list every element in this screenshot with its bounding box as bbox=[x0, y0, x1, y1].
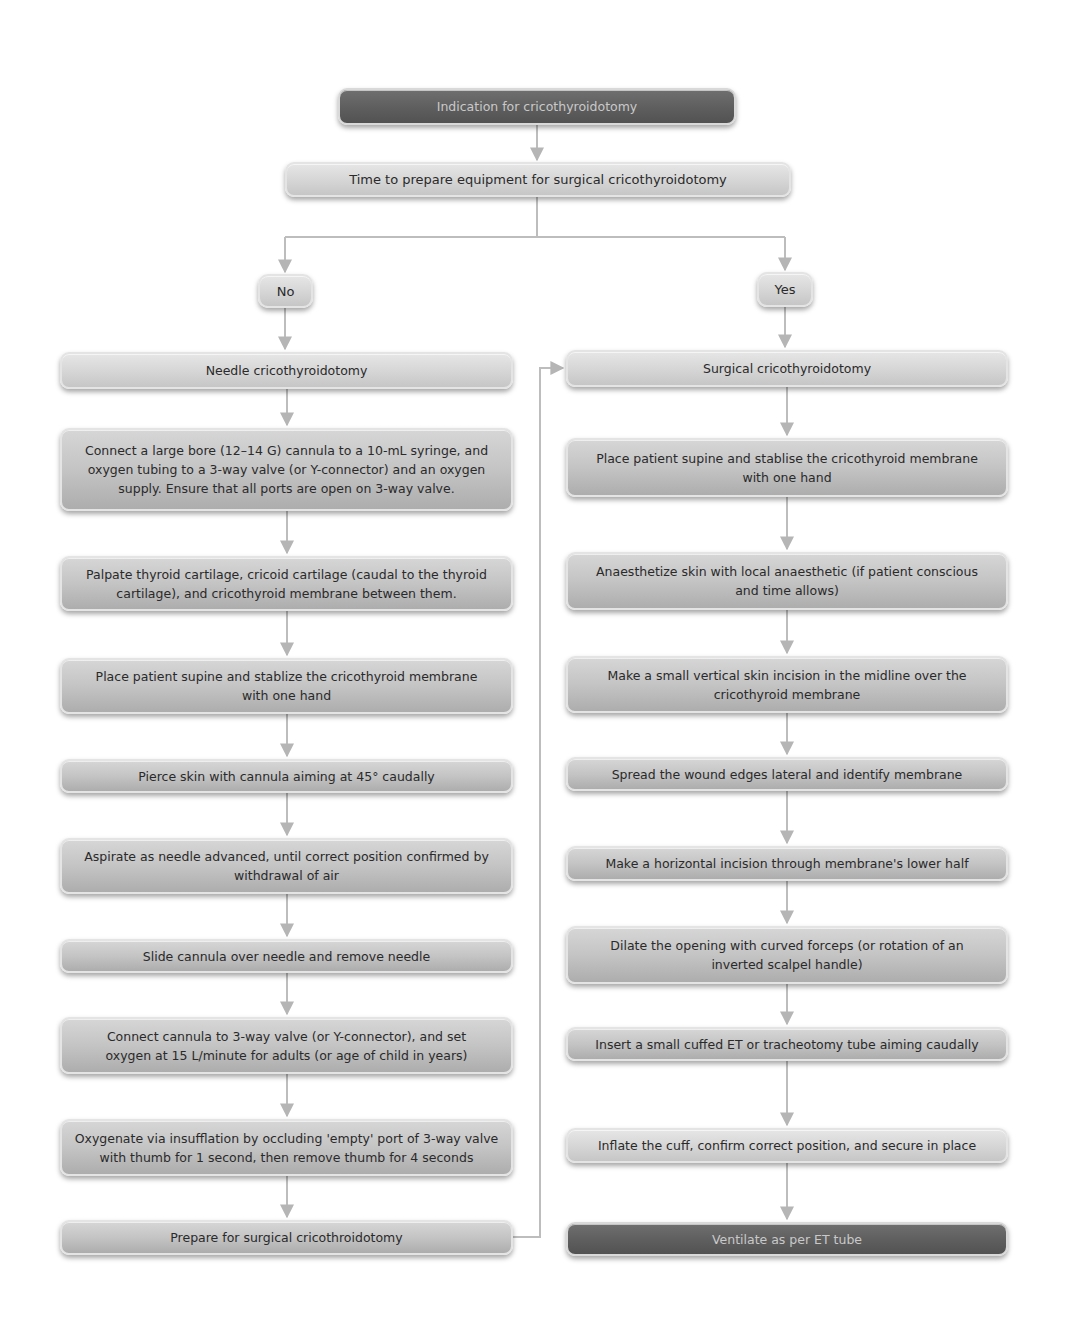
branch-yes: Yes bbox=[757, 272, 813, 307]
yes-step-3-label: Anaesthetize skin with local anaesthetic… bbox=[590, 562, 984, 600]
no-step-6-label: Aspirate as needle advanced, until corre… bbox=[80, 847, 493, 885]
yes-step-6: Make a horizontal incision through membr… bbox=[566, 846, 1008, 881]
yes-step-9: Inflate the cuff, confirm correct positi… bbox=[566, 1128, 1008, 1163]
no-step-10-label: Prepare for surgical cricothroidotomy bbox=[170, 1228, 402, 1247]
no-step-10: Prepare for surgical cricothroidotomy bbox=[60, 1220, 513, 1255]
no-step-7-label: Slide cannula over needle and remove nee… bbox=[143, 947, 430, 966]
no-step-2: Connect a large bore (12–14 G) cannula t… bbox=[60, 428, 513, 511]
yes-step-7-label: Dilate the opening with curved forceps (… bbox=[598, 936, 976, 974]
yes-step-5-label: Spread the wound edges lateral and ident… bbox=[612, 765, 963, 784]
yes-step-4: Make a small vertical skin incision in t… bbox=[566, 656, 1008, 713]
no-step-5-label: Pierce skin with cannula aiming at 45° c… bbox=[138, 767, 435, 786]
yes-step-2-label: Place patient supine and stablise the cr… bbox=[586, 449, 988, 487]
yes-step-4-label: Make a small vertical skin incision in t… bbox=[598, 666, 976, 704]
no-step-3: Palpate thyroid cartilage, cricoid carti… bbox=[60, 556, 513, 611]
yes-step-1-label: Surgical cricothyroidotomy bbox=[703, 359, 871, 378]
no-step-2-label: Connect a large bore (12–14 G) cannula t… bbox=[76, 441, 497, 498]
no-step-7: Slide cannula over needle and remove nee… bbox=[60, 939, 513, 973]
decision-node-label: Time to prepare equipment for surgical c… bbox=[349, 170, 727, 189]
yes-step-9-label: Inflate the cuff, confirm correct positi… bbox=[598, 1136, 976, 1155]
yes-step-3: Anaesthetize skin with local anaesthetic… bbox=[566, 552, 1008, 610]
start-node-label: Indication for cricothyroidotomy bbox=[437, 97, 638, 116]
end-node: Ventilate as per ET tube bbox=[566, 1222, 1008, 1256]
decision-node: Time to prepare equipment for surgical c… bbox=[285, 162, 791, 197]
no-step-8: Connect cannula to 3-way valve (or Y-con… bbox=[60, 1017, 513, 1074]
yes-step-8: Insert a small cuffed ET or tracheotomy … bbox=[566, 1027, 1008, 1061]
start-node: Indication for cricothyroidotomy bbox=[338, 88, 736, 125]
branch-no: No bbox=[258, 274, 313, 308]
yes-step-8-label: Insert a small cuffed ET or tracheotomy … bbox=[595, 1035, 978, 1054]
yes-step-7: Dilate the opening with curved forceps (… bbox=[566, 926, 1008, 984]
yes-step-6-label: Make a horizontal incision through membr… bbox=[605, 854, 968, 873]
flowchart: Indication for cricothyroidotomy Time to… bbox=[0, 0, 1073, 1340]
no-step-1: Needle cricothyroidotomy bbox=[60, 352, 513, 389]
no-step-9: Oxygenate via insufflation by occluding … bbox=[60, 1119, 513, 1176]
branch-no-label: No bbox=[277, 282, 295, 301]
branch-yes-label: Yes bbox=[775, 280, 796, 299]
yes-step-2: Place patient supine and stablise the cr… bbox=[566, 438, 1008, 497]
no-step-8-label: Connect cannula to 3-way valve (or Y-con… bbox=[84, 1027, 489, 1065]
no-step-1-label: Needle cricothyroidotomy bbox=[206, 361, 368, 380]
no-step-6: Aspirate as needle advanced, until corre… bbox=[60, 838, 513, 894]
end-node-label: Ventilate as per ET tube bbox=[712, 1230, 862, 1249]
no-step-9-label: Oxygenate via insufflation by occluding … bbox=[68, 1129, 505, 1167]
no-step-4-label: Place patient supine and stablize the cr… bbox=[86, 667, 487, 705]
no-step-4: Place patient supine and stablize the cr… bbox=[60, 658, 513, 714]
no-step-3-label: Palpate thyroid cartilage, cricoid carti… bbox=[80, 565, 493, 603]
yes-step-1: Surgical cricothyroidotomy bbox=[566, 350, 1008, 387]
yes-step-5: Spread the wound edges lateral and ident… bbox=[566, 757, 1008, 791]
no-step-5: Pierce skin with cannula aiming at 45° c… bbox=[60, 759, 513, 793]
